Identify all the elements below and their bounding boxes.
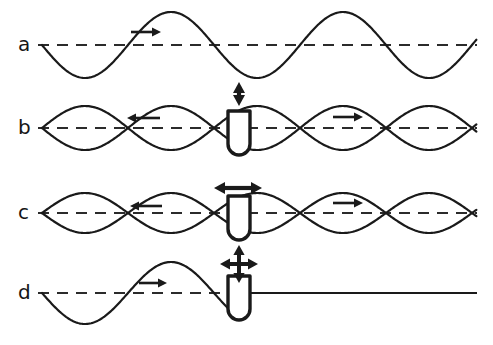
four-way-arrow-head-right [248, 258, 258, 269]
wave-direction-arrow-right-head [354, 112, 363, 121]
wave-direction-arrow-right-head [152, 27, 161, 36]
row-label-c: c [18, 202, 29, 222]
horizontal-double-arrow-head-left [214, 182, 225, 194]
four-way-arrow-head-up [233, 245, 244, 255]
diagram-canvas [0, 0, 493, 345]
four-way-arrow-head-left [220, 258, 230, 269]
row-label-b: b [18, 117, 31, 137]
vertical-double-arrow-head-down [233, 95, 245, 106]
row-d [38, 245, 477, 324]
wave-curve-primary [42, 12, 476, 78]
buoy [228, 196, 250, 240]
wave-direction-arrow-right-head [158, 278, 167, 287]
wave-direction-arrow-left-head [127, 113, 136, 122]
row-b [38, 82, 477, 155]
row-c [38, 182, 477, 240]
buoy [228, 111, 250, 155]
vertical-double-arrow-head-up [233, 82, 245, 93]
wave-direction-arrow-right-head [354, 198, 363, 207]
wave-buoy-diagram: abcd [0, 0, 493, 345]
row-label-a: a [18, 34, 30, 54]
row-label-d: d [18, 282, 31, 302]
row-a [38, 12, 477, 78]
